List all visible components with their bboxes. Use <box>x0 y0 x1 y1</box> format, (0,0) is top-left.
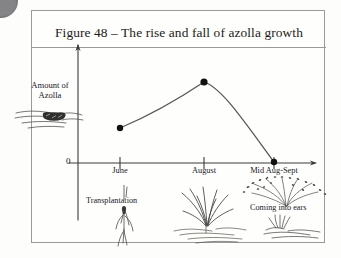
scan-corner-shadow-inner-icon <box>0 0 16 16</box>
y-axis-label-line2: Azolla <box>14 90 86 100</box>
origin-label: 0 <box>66 156 71 166</box>
rice-ear-small-sketch-icon <box>262 214 324 242</box>
data-point-august <box>200 78 207 85</box>
rice-ear-spray-sketch-icon <box>240 176 332 210</box>
x-tick-label-august: August <box>182 166 226 175</box>
y-axis-label-line1: Amount of <box>14 80 86 90</box>
y-axis-label: Amount of Azolla <box>14 80 86 100</box>
data-point-june <box>117 125 123 131</box>
data-point-mid-aug-sept <box>271 159 277 165</box>
figure-page: Figure 48 – The rise and fall of azolla … <box>0 0 341 258</box>
x-tick-label-mid-aug-sept: Mid Aug-Sept <box>236 166 312 175</box>
rice-seedling-sketch-icon <box>104 185 144 247</box>
x-tick-label-june: June <box>100 166 140 175</box>
growth-curve <box>120 82 274 162</box>
azolla-on-water-sketch-icon <box>14 101 84 135</box>
